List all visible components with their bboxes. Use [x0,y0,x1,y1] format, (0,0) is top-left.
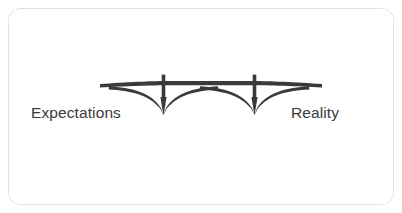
bridge-pylon-left-mast [162,75,166,98]
label-expectations: Expectations [31,105,121,121]
bridge-deck [100,81,322,88]
bridge-pylon-right-tip [251,97,257,116]
bridge-cable-right-west [200,86,255,115]
slide-canvas: Expectations Reality [0,0,402,213]
bridge-pylon-right-mast [253,75,257,98]
bridge-cable-left-east [164,86,219,115]
bridge-diagram: Expectations Reality [0,0,402,213]
label-reality: Reality [291,105,339,121]
bridge-pylon-left-tip [160,97,166,116]
